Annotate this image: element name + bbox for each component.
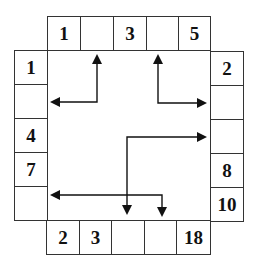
arrowhead-right-icon: [197, 98, 207, 108]
arrowhead-up-icon: [92, 54, 102, 64]
arrow-path-1: [58, 62, 97, 102]
arrow-path-2: [158, 62, 199, 103]
arrow-layer: [0, 0, 260, 271]
arrowhead-up-icon: [153, 54, 163, 64]
arrowhead-left-icon: [50, 97, 60, 107]
arrowhead-right-icon: [197, 132, 207, 142]
arrowhead-left-icon: [50, 190, 60, 200]
arrowhead-down-icon: [122, 205, 132, 215]
arrow-path-4: [58, 195, 162, 210]
arrowhead-down-icon: [157, 207, 167, 217]
